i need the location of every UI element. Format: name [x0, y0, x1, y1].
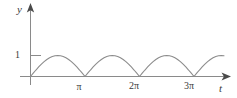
y-axis-label: y — [17, 4, 22, 15]
plot-canvas — [0, 0, 237, 98]
x-tick-label-pi: π — [70, 82, 88, 92]
x-axis-label: t — [219, 83, 222, 94]
y-tick-label-1: 1 — [15, 50, 20, 60]
rectified-sine-figure: y t 1 π 2π 3π — [0, 0, 237, 98]
data-curve-rectified-sine — [31, 56, 224, 77]
x-tick-label-2pi: 2π — [124, 81, 144, 91]
x-tick-label-3pi: 3π — [179, 81, 199, 91]
